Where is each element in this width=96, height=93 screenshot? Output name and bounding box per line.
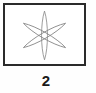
figure-panel: 2 <box>0 0 96 93</box>
figure-caption: 2 <box>0 71 92 90</box>
asterisk-petal-vertical <box>42 11 48 60</box>
diagram-frame <box>3 3 86 66</box>
six-pointed-asterisk-icon <box>5 5 84 64</box>
